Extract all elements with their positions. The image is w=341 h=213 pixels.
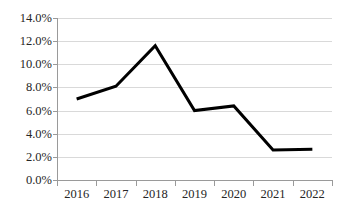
line-chart: 0.0%2.0%4.0%6.0%8.0%10.0%12.0%14.0% 2016…	[0, 0, 341, 213]
series-line	[77, 46, 313, 150]
series-layer	[0, 0, 341, 213]
